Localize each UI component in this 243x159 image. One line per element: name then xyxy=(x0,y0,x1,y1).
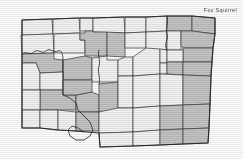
county-mcintosh xyxy=(99,132,133,147)
county-dunn xyxy=(63,56,92,80)
county-traill xyxy=(183,62,212,76)
county-richland xyxy=(183,104,210,129)
county-hettinger xyxy=(22,110,40,128)
county-emmons xyxy=(99,108,133,133)
county-sargent xyxy=(160,129,183,145)
map-svg xyxy=(0,0,243,159)
county-rolette xyxy=(125,17,146,33)
county-se-corner xyxy=(183,128,209,144)
county-eddy xyxy=(160,49,167,63)
county-mclean xyxy=(92,56,118,82)
county-towner xyxy=(146,16,167,32)
county-burleigh xyxy=(99,82,118,112)
county-divide xyxy=(22,19,53,35)
map-page: Fox Squirrel xyxy=(0,0,243,159)
county-renville xyxy=(80,18,93,31)
county-stutsman xyxy=(133,74,160,108)
north-dakota-county-map xyxy=(0,0,243,159)
county-benson xyxy=(146,31,167,50)
county-slope-bowman xyxy=(22,90,40,110)
county-ramsey xyxy=(167,31,181,50)
county-mchenry xyxy=(107,32,125,57)
county-golden-valley xyxy=(22,63,40,90)
county-logan-lamoure xyxy=(133,106,160,132)
county-grand-forks xyxy=(183,48,213,62)
county-billings xyxy=(40,72,63,90)
county-sioux xyxy=(76,112,99,131)
county-griggs-steele xyxy=(167,62,183,75)
county-adams xyxy=(40,110,58,130)
county-barnes xyxy=(160,74,183,106)
county-mercer-oliver xyxy=(63,80,92,95)
county-bottineau xyxy=(93,17,125,33)
county-walsh xyxy=(181,31,215,48)
county-layer xyxy=(21,16,215,147)
county-sheridan xyxy=(118,57,133,76)
county-ransom xyxy=(160,105,183,130)
county-burke xyxy=(53,18,80,34)
county-nelson xyxy=(167,50,183,62)
county-cavalier xyxy=(167,16,192,31)
county-morton xyxy=(76,92,99,112)
county-wells xyxy=(133,48,160,76)
county-dickey xyxy=(133,130,160,146)
county-pierce xyxy=(125,32,146,48)
county-kidder xyxy=(118,76,133,108)
county-grant xyxy=(58,110,76,131)
county-foster xyxy=(160,63,167,74)
county-cass xyxy=(183,75,211,105)
